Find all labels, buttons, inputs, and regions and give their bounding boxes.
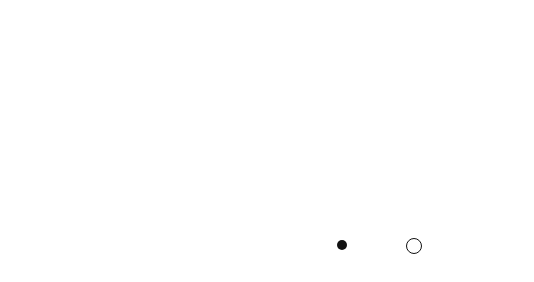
cdi2-structure-figure	[0, 0, 534, 282]
cd-legend-symbol-icon	[337, 240, 347, 250]
i-legend-symbol-icon	[406, 238, 422, 254]
